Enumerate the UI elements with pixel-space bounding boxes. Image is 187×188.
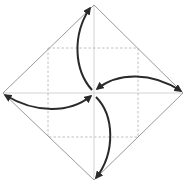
origami-diagram [0,0,187,188]
arrow-to-top-icon [77,8,92,90]
diagram-canvas [0,0,187,188]
diamond-outline [3,5,183,180]
dashed-fold-square [48,48,138,137]
